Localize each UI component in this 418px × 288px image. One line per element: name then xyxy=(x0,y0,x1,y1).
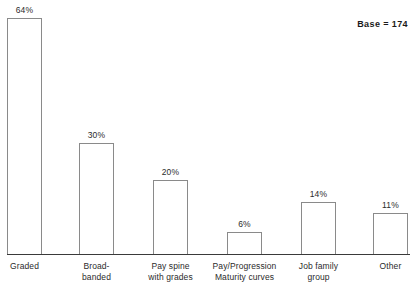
bar xyxy=(227,232,262,254)
category-label: Pay spine with grades xyxy=(131,261,210,283)
bar-value-label: 14% xyxy=(289,189,348,199)
bar-value-label: 6% xyxy=(215,219,274,229)
bar-value-label: 11% xyxy=(361,200,418,210)
category-label: Graded xyxy=(0,261,64,272)
category-label: Pay/Progression Maturity curves xyxy=(205,261,284,283)
bar-chart: Base = 174 64%30%20%6%14%11% GradedBroad… xyxy=(0,0,418,288)
bar xyxy=(153,180,188,254)
bar-value-label: 30% xyxy=(67,130,126,140)
category-label: Other xyxy=(351,261,418,272)
category-label: Job family group xyxy=(279,261,358,283)
category-label: Broad- banded xyxy=(57,261,136,283)
bar xyxy=(301,202,336,254)
bar xyxy=(7,18,42,254)
plot-area: 64%30%20%6%14%11% xyxy=(0,0,418,256)
bar-value-label: 64% xyxy=(0,5,54,15)
bar xyxy=(373,213,408,254)
x-axis-line xyxy=(7,254,410,255)
bar xyxy=(79,143,114,254)
bar-value-label: 20% xyxy=(141,167,200,177)
